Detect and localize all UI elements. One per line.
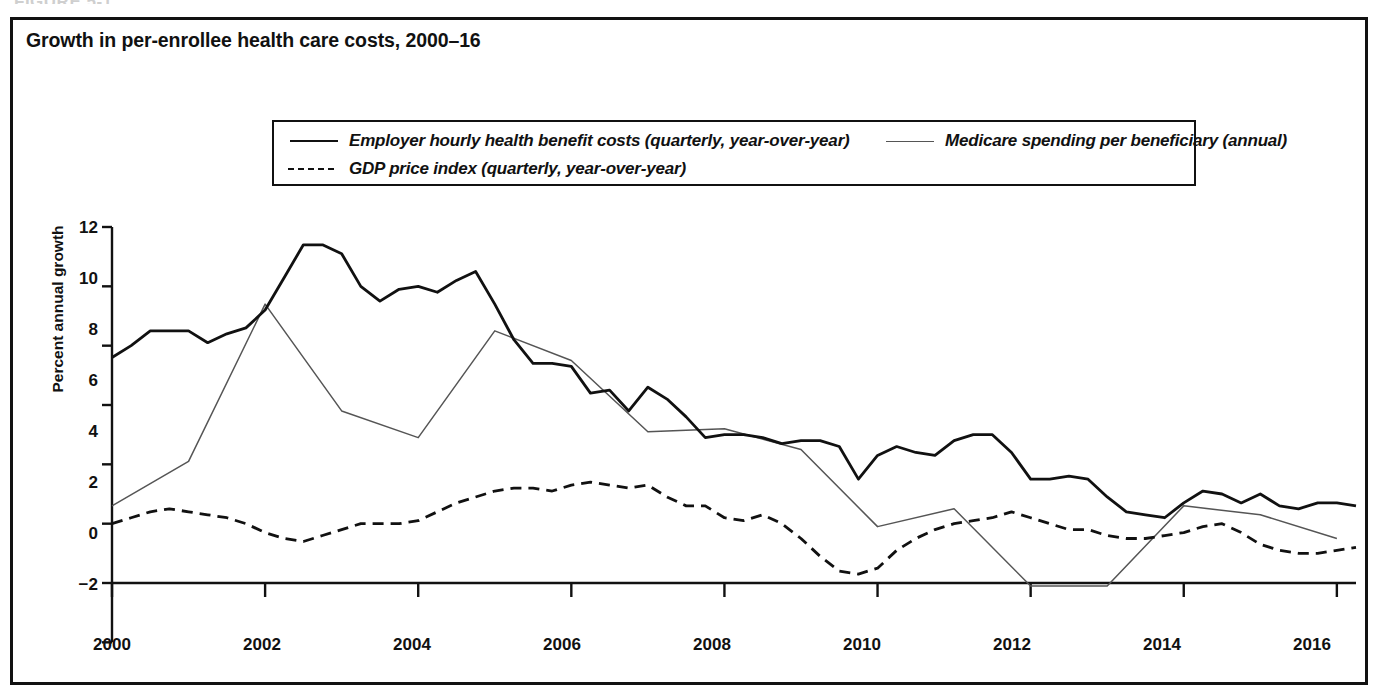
series-line-medicare	[112, 304, 1337, 586]
series-line-gdp	[112, 482, 1356, 574]
y-axis-ticks	[102, 227, 112, 642]
series-line-employer	[112, 245, 1356, 518]
chart-plot	[0, 0, 1380, 692]
figure-page: FIGURE 5-1 Growth in per-enrollee health…	[0, 0, 1380, 692]
x-axis-ticks	[112, 583, 1337, 597]
